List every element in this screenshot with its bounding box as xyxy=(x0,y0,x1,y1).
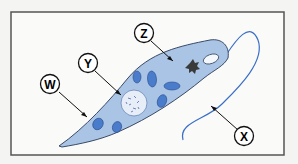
label-x-text: X xyxy=(240,130,248,144)
label-w-text: W xyxy=(44,78,56,92)
label-y-text: Y xyxy=(84,57,92,71)
label-z-text: Z xyxy=(140,27,147,41)
euglena-diagram: W Y Z X xyxy=(0,0,298,164)
nucleus xyxy=(121,90,147,116)
